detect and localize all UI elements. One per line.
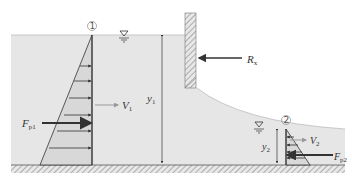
svg-text:1: 1 [90, 21, 96, 31]
rx-label: Rx [246, 53, 258, 67]
sluice-gate-diagram: Rx Fp1 V1 1 y1 2 Fp2 V2 [0, 0, 352, 186]
sluice-gate [185, 13, 196, 88]
channel-floor [11, 165, 345, 173]
svg-text:2: 2 [284, 115, 290, 125]
